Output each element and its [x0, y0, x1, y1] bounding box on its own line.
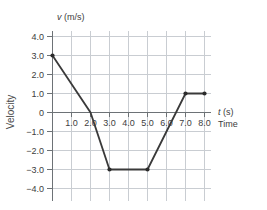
- y-tick-label: −1.0: [26, 127, 44, 137]
- x-axis-unit: (s): [223, 107, 234, 117]
- y-tick-label: 2.0: [31, 70, 44, 80]
- x-tick-label: 5.0: [141, 118, 154, 128]
- x-tick-label: 7.0: [179, 118, 192, 128]
- x-tick-label: 1.0: [65, 118, 78, 128]
- y-tick-label: 3.0: [31, 51, 44, 61]
- x-tick-label: 3.0: [103, 118, 116, 128]
- y-axis-title: v (m/s): [57, 12, 85, 22]
- y-axis-name-rotated: Velocity: [5, 95, 16, 129]
- y-tick-label: 1.0: [31, 89, 44, 99]
- data-point: [145, 167, 149, 171]
- y-tick-label: 4.0: [31, 32, 44, 42]
- y-tick-label: 0: [39, 108, 44, 118]
- y-tick-label: −4.0: [26, 184, 44, 194]
- x-axis-name: Time: [218, 119, 238, 129]
- velocity-time-chart: 4.0 3.0 2.0 1.0 0 −1.0 −2.0 −3.0 −4.0 1.…: [0, 0, 267, 210]
- y-axis-unit: (m/s): [64, 12, 85, 22]
- data-point: [183, 91, 187, 95]
- x-tick-label: 4.0: [122, 118, 135, 128]
- chart-svg: 4.0 3.0 2.0 1.0 0 −1.0 −2.0 −3.0 −4.0 1.…: [0, 0, 267, 210]
- y-tick-label: −3.0: [26, 165, 44, 175]
- data-point: [107, 167, 111, 171]
- svg-text:t (s): t (s): [218, 107, 234, 117]
- svg-text:v (m/s): v (m/s): [57, 12, 85, 22]
- data-point: [202, 91, 206, 95]
- y-axis-name: Velocity: [5, 95, 16, 129]
- data-point: [50, 53, 54, 57]
- x-tick-label: 8.0: [198, 118, 211, 128]
- y-tick-label: −2.0: [26, 146, 44, 156]
